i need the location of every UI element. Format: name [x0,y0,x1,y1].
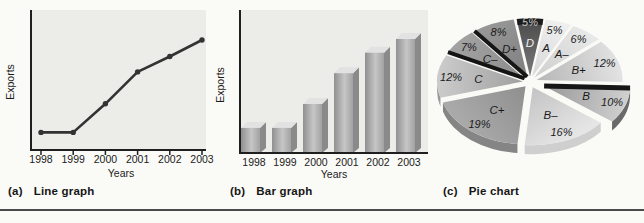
bar-side-face [322,98,328,153]
bar [272,128,291,153]
bar-y-axis-title: Exports [215,67,226,103]
pie-slice-label-B–: B– [544,109,559,121]
bar [365,53,384,153]
line-x-tick-label: 2003 [190,153,214,165]
bar-x-tick-label: 1998 [242,156,266,168]
line-x-tick-label: 2001 [126,153,150,165]
pie-slice-label-B+: B+ [571,64,586,76]
bar-x-tick-label: 1999 [273,156,297,168]
pie-slice-percent-C+: 19% [468,118,490,130]
bar-side-face [384,47,390,153]
pie-slice-label-A–: A– [554,48,570,60]
caption-pie-chart-prefix: (c) [443,185,458,197]
line-data-point [38,130,43,135]
bar-x-tick-label: 2002 [366,156,390,168]
pie-slice-percent-D+: 8% [491,26,507,38]
bar [396,39,415,153]
line-plot-area [32,10,206,150]
bar-side-face [353,67,359,153]
line-data-point [103,101,108,106]
caption-bar-graph-label: Bar graph [256,185,312,197]
pie-slice-label-A: A [541,42,550,54]
pie-slice-percent-B–: 16% [550,126,572,138]
pie-slice-C+ [443,86,526,144]
bar [334,73,353,153]
caption-line-graph-prefix: (a) [8,185,23,197]
figure-graph-types: 199819992000200120022003YearsExports 199… [0,0,644,223]
pie-slice-edge-B [544,86,630,88]
pie-slice-percent-B+: 12% [594,57,616,69]
pie-chart: D5%A5%A–6%B+12%B10%B–16%C+19%C12%C–7%D+8… [415,0,644,192]
caption-pie-chart-label: Pie chart [469,185,519,197]
bar-graph: 199819992000200120022003YearsExports [215,0,430,185]
line-x-axis-title: Years [108,167,134,179]
pie-slice-label-D+: D+ [502,43,517,55]
line-x-tick-label: 1998 [29,153,53,165]
line-data-point [167,54,172,59]
line-y-axis-title: Exports [4,64,16,100]
bar-x-tick-label: 2001 [335,156,359,168]
pie-slice-label-C+: C+ [490,104,505,116]
bottom-rule [0,209,644,211]
caption-pie-chart: (c) Pie chart [443,185,519,197]
caption-bar-graph: (b) Bar graph [230,185,312,197]
pie-slice-label-B: B [582,90,590,102]
caption-bar-graph-prefix: (b) [230,185,245,197]
line-x-tick-label: 1999 [62,153,86,165]
line-graph: 199819992000200120022003YearsExports [0,0,215,185]
pie-slice-percent-C: 12% [440,71,462,83]
pie-slice-percent-D: 5% [522,16,538,28]
pie-slice-label-C–: C– [483,53,498,65]
pie-slice-percent-A–: 6% [571,33,587,45]
line-x-tick-label: 2000 [94,153,118,165]
line-data-point [71,130,76,135]
line-x-tick-label: 2002 [158,153,182,165]
pie-slice-label-D: D [526,37,534,49]
bar [303,104,322,153]
bar-x-tick-label: 2000 [304,156,328,168]
line-data-point [199,37,204,42]
pie-slice-percent-B: 10% [601,96,623,108]
caption-line-graph: (a) Line graph [8,185,94,197]
pie-slice-label-C: C [474,73,483,85]
bar-x-axis-title: Years [321,168,347,180]
pie-slice-percent-A: 5% [547,24,563,36]
bar [241,128,260,153]
caption-line-graph-label: Line graph [34,185,95,197]
pie-slice-percent-C–: 7% [461,41,477,53]
line-data-point [135,69,140,74]
